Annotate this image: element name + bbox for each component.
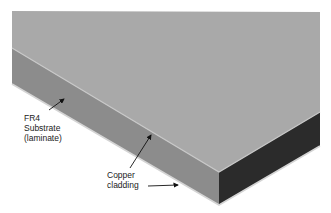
cladding-bottom-arrow: [148, 185, 178, 186]
cladding-label-line1: Copper: [107, 170, 139, 180]
laminate-board-illustration: [0, 0, 331, 213]
substrate-label-line1: FR4: [24, 113, 62, 123]
substrate-label-line3: (laminate): [24, 133, 62, 143]
cladding-label: Copper cladding: [107, 170, 139, 190]
cladding-label-line2: cladding: [107, 180, 139, 190]
substrate-label: FR4 Substrate (laminate): [24, 113, 62, 143]
substrate-label-line2: Substrate: [24, 123, 62, 133]
